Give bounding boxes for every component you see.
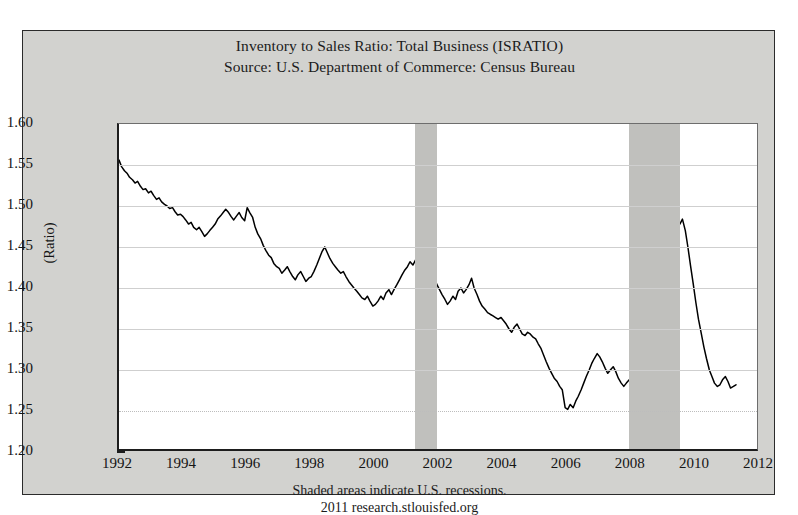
gridline — [119, 329, 757, 330]
x-tick-label: 1994 — [146, 455, 216, 472]
y-tick-mark — [117, 451, 125, 453]
source-attribution: 2011 research.stlouisfed.org — [23, 499, 776, 515]
gridline — [119, 288, 757, 289]
x-tick-label: 2004 — [467, 455, 537, 472]
chart-screenshot: Inventory to Sales Ratio: Total Business… — [0, 0, 798, 515]
chart-title-block: Inventory to Sales Ratio: Total Business… — [23, 35, 776, 77]
chart-source: Source: U.S. Department of Commerce: Cen… — [23, 56, 776, 77]
chart-card: Inventory to Sales Ratio: Total Business… — [22, 30, 775, 495]
x-tick-label: 2012 — [723, 455, 793, 472]
x-tick-label: 2010 — [659, 455, 729, 472]
gridline — [119, 411, 757, 413]
recession-band — [629, 124, 680, 449]
y-tick-label: 1.45 — [0, 237, 33, 254]
plot-inner — [119, 124, 757, 449]
x-tick-label: 1998 — [274, 455, 344, 472]
y-tick-label: 1.20 — [0, 442, 33, 459]
gridline — [119, 247, 757, 248]
gridline — [119, 370, 757, 371]
x-tick-label: 2008 — [595, 455, 665, 472]
x-tick-label: 2000 — [338, 455, 408, 472]
y-tick-label: 1.55 — [0, 155, 33, 172]
y-axis-label: (Ratio) — [41, 222, 58, 263]
y-tick-label: 1.60 — [0, 114, 33, 131]
chart-footer-block: Shaded areas indicate U.S. recessions. 2… — [23, 482, 776, 515]
y-tick-label: 1.25 — [0, 401, 33, 418]
y-tick-label: 1.50 — [0, 196, 33, 213]
gridline — [119, 165, 757, 166]
x-tick-label: 2006 — [531, 455, 601, 472]
gridline — [119, 206, 757, 207]
plot-area — [117, 123, 758, 451]
x-tick-label: 2002 — [403, 455, 473, 472]
y-tick-label: 1.40 — [0, 278, 33, 295]
x-tick-label: 1996 — [210, 455, 280, 472]
y-tick-label: 1.30 — [0, 360, 33, 377]
chart-title: Inventory to Sales Ratio: Total Business… — [23, 35, 776, 56]
recession-band — [415, 124, 436, 449]
recession-note: Shaded areas indicate U.S. recessions. — [23, 482, 776, 499]
x-tick-label: 1992 — [82, 455, 152, 472]
y-tick-label: 1.35 — [0, 319, 33, 336]
